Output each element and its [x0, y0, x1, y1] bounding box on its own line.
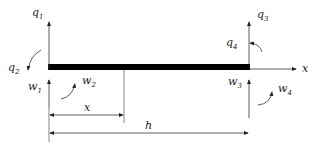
w3-label: w3: [228, 75, 242, 90]
q2-label: q2: [8, 61, 20, 76]
beam-diagram: x q1 q2 q3 q4 w1 w2 w3 w4 x h: [0, 0, 316, 152]
q1-label: q1: [32, 6, 44, 21]
x-axis-label: x: [302, 62, 309, 75]
w2-rotation-arrow: [61, 84, 75, 99]
h-dimension-label: h: [145, 119, 152, 132]
w4-rotation-arrow: [258, 92, 272, 105]
q4-rotation-arrow: [250, 43, 262, 52]
w1-label: w1: [28, 80, 42, 95]
q3-label: q3: [257, 8, 269, 23]
w2-label: w2: [82, 74, 96, 89]
w4-label: w4: [278, 82, 292, 97]
q4-label: q4: [226, 36, 238, 51]
x-dimension-label: x: [84, 101, 91, 114]
q2-rotation-arrow: [28, 50, 41, 70]
diagram-canvas: x q1 q2 q3 q4 w1 w2 w3 w4 x h: [0, 0, 316, 152]
beam: [48, 64, 250, 70]
